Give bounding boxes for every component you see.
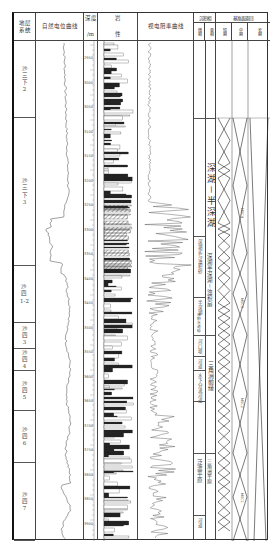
cycle-plot — [216, 13, 270, 541]
strat-header: 地层 系统 — [14, 13, 35, 41]
depth-tick-label: 3600 — [84, 375, 93, 379]
depth-tick-label: 3200 — [84, 179, 93, 183]
msc-label: MSC4 — [240, 208, 244, 218]
depth-tick-label: 3050 — [84, 105, 93, 109]
resistivity-plot — [138, 13, 194, 541]
strat-cell: 沙 四 6 — [14, 411, 35, 463]
msc-label: MSC3 — [240, 298, 244, 308]
micro-facies-header: 微相 — [194, 23, 205, 41]
strat-cell: 沙 四 1-2 — [14, 266, 35, 323]
facies-delta-plain: 三角洲平原 — [206, 459, 213, 484]
strat-cell: 沙 三 下 3 — [14, 118, 35, 266]
depth-tick-label: 3650 — [84, 399, 93, 403]
facies-header: 沉积相 — [194, 13, 215, 23]
lithology-plot — [98, 13, 138, 541]
micro-channel: 河道 — [196, 359, 202, 369]
depth-tick-label: 3900 — [84, 522, 93, 526]
cycle-column: 基准面旋回 短期 中期 长期 MSC4MSC3MSC2MSC1 — [216, 13, 270, 539]
strat-cell: 沙 三 下 2 — [14, 41, 35, 118]
strat-cell: 沙 四 7 — [14, 463, 35, 541]
depth-tick-label: 3400 — [84, 277, 93, 281]
subfacies-header: 亚相 — [205, 23, 216, 41]
depth-tick-label: 3250 — [84, 203, 93, 207]
depth-tick-label: 2950 — [84, 56, 93, 60]
depth-tick-label: 3550 — [84, 350, 93, 354]
depth-tick-label: 3850 — [84, 497, 93, 501]
resistivity-column: 视电阻率曲线 — [138, 13, 194, 539]
strat-cell: 沙 四 5 — [14, 371, 35, 411]
facies-column: 沉积相 微相 亚相 深湖－半深湖 深湖半深湖－浊积扇 深湖泥与浊积砂 半深湖 浊… — [194, 13, 216, 539]
micro-mouth-bar: 河口坝 — [196, 339, 202, 354]
msc-label: MSC1 — [240, 493, 244, 503]
sp-curve-plot — [36, 13, 84, 541]
strat-cell: 沙 四 4 — [14, 349, 35, 371]
lithology-column: 岩 性 — [98, 13, 138, 539]
micro-channel-2: 河道 — [196, 518, 202, 528]
depth-tick-label: 3000 — [84, 81, 93, 85]
micro-subaqueous-channel: 水下分流河道 — [196, 373, 202, 403]
depth-tick-label: 3500 — [84, 326, 93, 330]
facies-deep-turbidite: 深湖半深湖－浊积扇 — [206, 253, 214, 307]
depth-tick-label: 3800 — [84, 473, 93, 477]
depth-tick-label: 3750 — [84, 448, 93, 452]
depth-tick-label: 3700 — [84, 424, 93, 428]
depth-tick-label: 3150 — [84, 154, 93, 158]
depth-tick-label: 3450 — [84, 301, 93, 305]
micro-turbidite-channel: 浊积水道砂 — [196, 313, 201, 333]
strat-cell: 沙 四 3 — [14, 323, 35, 349]
depth-tick-label: 3350 — [84, 252, 93, 256]
depth-column: 深度 /m 2950300030503100315032003250330033… — [84, 13, 98, 539]
facies-delta-front: 三角洲前缘 — [206, 361, 215, 391]
depth-tick-label: 3300 — [84, 228, 93, 232]
micro-deep-mud: 深湖泥与浊积砂 — [196, 239, 202, 274]
msc-label: MSC2 — [240, 398, 244, 408]
strat-column: 地层 系统 沙 三 下 2沙 三 下 3沙 四 1-2沙 四 3沙 四 4沙 四… — [14, 13, 36, 539]
micro-floodplain: 泛滥平原 — [196, 459, 204, 483]
depth-tick-label: 3100 — [84, 130, 93, 134]
well-log-figure: 地层 系统 沙 三 下 2沙 三 下 3沙 四 1-2沙 四 3沙 四 4沙 四… — [12, 12, 268, 540]
sp-curve-column: 自然电位曲线 — [36, 13, 84, 539]
